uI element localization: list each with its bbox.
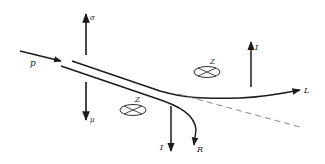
z-crossed-ellipse-left-icon (120, 105, 146, 116)
label-l: L (303, 86, 309, 95)
incoming-p-arrow (20, 51, 61, 61)
dashed-extension-line (178, 94, 300, 127)
label-mu: μ (90, 116, 95, 124)
label-z-left: Z (134, 96, 140, 104)
label-z-right: Z (209, 58, 215, 66)
label-i-up: I (254, 43, 259, 52)
flow-diagram: p σ μ Z Z I I L R (0, 0, 325, 164)
channel-upper-line (72, 61, 300, 98)
label-r: R (196, 145, 203, 154)
label-sigma: σ (90, 14, 95, 22)
z-crossed-ellipse-right-icon (194, 67, 220, 78)
channel-lower-line (61, 66, 196, 145)
label-p: p (30, 58, 36, 68)
label-i-down: I (159, 143, 164, 152)
